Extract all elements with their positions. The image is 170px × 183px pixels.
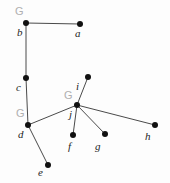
graph-edge — [73, 105, 77, 135]
graph-canvas — [0, 0, 170, 183]
graph-node[interactable] — [45, 162, 51, 168]
node-label-j: j — [69, 109, 72, 120]
graph-edge — [77, 105, 105, 134]
graph-node[interactable] — [70, 132, 76, 138]
graph-node[interactable] — [23, 20, 29, 26]
group-label-d: G — [16, 108, 25, 119]
graph-edge — [77, 105, 155, 125]
graph-node[interactable] — [23, 75, 29, 81]
edge-layer — [26, 23, 155, 165]
graph-node[interactable] — [85, 74, 91, 80]
node-label-a: a — [75, 28, 81, 39]
graph-node[interactable] — [25, 122, 31, 128]
node-layer — [23, 20, 158, 168]
node-label-h: h — [145, 131, 151, 142]
graph-edge — [28, 125, 48, 165]
node-label-e: e — [38, 167, 43, 178]
node-label-g: g — [95, 141, 101, 152]
node-label-i: i — [76, 81, 79, 92]
graph-node[interactable] — [152, 122, 158, 128]
graph-edge — [26, 78, 28, 125]
node-label-f: f — [68, 141, 71, 152]
graph-figure: abcdefghijGGG — [0, 0, 170, 183]
node-label-d: d — [18, 129, 24, 140]
graph-edge — [26, 23, 80, 24]
group-label-j: G — [64, 90, 73, 101]
group-label-b: G — [15, 6, 24, 17]
graph-node[interactable] — [74, 102, 80, 108]
graph-node[interactable] — [102, 131, 108, 137]
node-label-c: c — [16, 82, 21, 93]
node-label-b: b — [17, 27, 23, 38]
